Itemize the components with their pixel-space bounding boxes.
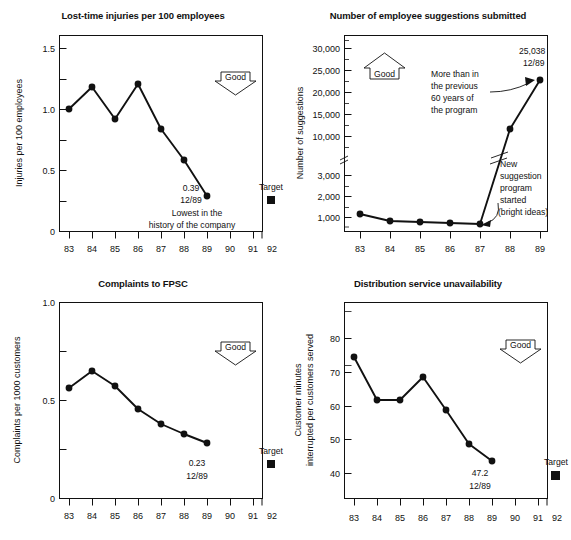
y-axis-ticks (345, 41, 352, 228)
last-value-label: 0.23 (189, 458, 206, 468)
x-tick-label: 89 (202, 244, 212, 254)
x-tick-label: 91 (248, 244, 258, 254)
x-tick-label: 85 (110, 244, 120, 254)
x-tick-label: 90 (510, 513, 520, 523)
x-tick-label: 84 (87, 511, 97, 521)
y-tick-label: 15,000 (312, 110, 340, 120)
x-tick-label: 85 (415, 244, 425, 254)
y-axis-title: Complaints per 1000 customers (12, 336, 22, 464)
last-value-date-label: 12/89 (180, 195, 202, 205)
callout-a-line-2: the previous (431, 81, 478, 91)
x-tick-label: 83 (64, 511, 74, 521)
x-tick-label: 87 (156, 244, 166, 254)
x-tick-label: 91 (533, 513, 543, 523)
callout-a-arrowhead (525, 77, 535, 86)
chart-panel-distribution-service-unavailability: Distribution service unavailability 80 7… (285, 268, 571, 540)
last-value-date-label: 12/89 (469, 481, 491, 491)
x-tick-label: 83 (64, 244, 74, 254)
chart-panel-employee-suggestions: Number of employee suggestions submitted (285, 0, 571, 270)
last-value-label: 25,038 (519, 46, 546, 56)
last-value-label: 47.2 (472, 468, 489, 478)
x-axis-ticks (70, 232, 263, 239)
y-tick-label: 10,000 (312, 132, 340, 142)
x-tick-label: 89 (535, 244, 545, 254)
x-tick-label: 85 (395, 513, 405, 523)
x-tick-label: 88 (505, 244, 515, 254)
chart-svg-lost-time-injuries: 1.5 1.0 0.5 0 Injuries per 100 employees… (0, 0, 286, 270)
chart-panel-complaints-fpsc: Complaints to FPSC 1.0 0.5 0 Complaints … (0, 268, 286, 540)
good-arrow-label: Good (225, 72, 246, 82)
x-tick-label: 92 (267, 511, 277, 521)
y-axis-ticks (345, 312, 352, 474)
y-tick-label: 3,000 (317, 171, 340, 181)
x-tick-label: 87 (156, 511, 166, 521)
y-tick-label: 50 (330, 435, 340, 445)
x-tick-label: 89 (487, 513, 497, 523)
callout-b-line-4: started (500, 195, 526, 205)
callout-a-line-4: the program (431, 105, 477, 115)
good-arrow-up: Good (364, 53, 405, 79)
x-tick-label: 92 (552, 513, 562, 523)
x-tick-label: 86 (133, 244, 143, 254)
x-tick-label: 86 (133, 511, 143, 521)
chart-svg-employee-suggestions: 30,000 25,000 20,000 15,000 10,000 3,000… (285, 0, 571, 270)
data-points (66, 81, 211, 200)
x-tick-label: 87 (441, 513, 451, 523)
target-marker (267, 460, 275, 468)
y-tick-label: 0 (50, 494, 55, 504)
y-axis-title: Number of suggestions (295, 86, 305, 179)
y-tick-label: 1.0 (42, 105, 55, 115)
x-axis-ticks (355, 499, 548, 506)
x-tick-label: 90 (225, 511, 235, 521)
callout-b-line-2: suggestion (500, 171, 542, 181)
x-tick-label: 84 (372, 513, 382, 523)
y-tick-label: 60 (330, 402, 340, 412)
note-line-1: Lowest in the (172, 208, 223, 218)
chart-svg-complaints-fpsc: 1.0 0.5 0 Complaints per 1000 customers … (0, 268, 286, 540)
y-axis-title-line-1: Customer minutes (293, 363, 303, 437)
x-axis-ticks (361, 232, 541, 239)
x-tick-label: 84 (385, 244, 395, 254)
good-arrow-down: Good (500, 340, 541, 363)
last-value-date-label: 12/89 (186, 471, 208, 481)
y-tick-label: 2,000 (317, 192, 340, 202)
chart-svg-distribution-service-unavailability: 80 70 60 50 40 30 Customer minutes inter… (285, 268, 571, 540)
x-tick-label: 88 (179, 511, 189, 521)
data-line (69, 84, 207, 196)
x-axis-ticks (70, 499, 263, 506)
good-arrow-label: Good (510, 340, 531, 350)
last-value-date-label: 12/89 (523, 58, 545, 68)
y-tick-label: 1.0 (42, 298, 55, 308)
y-tick-label: 80 (330, 334, 340, 344)
callout-a-leader (490, 83, 529, 92)
y-axis-title: Injuries per 100 employees (14, 78, 24, 187)
x-tick-label: 90 (225, 244, 235, 254)
x-tick-label: 86 (418, 513, 428, 523)
x-tick-label: 91 (248, 511, 258, 521)
last-value-label: 0.39 (183, 183, 200, 193)
y-tick-label: 1.5 (42, 44, 55, 54)
x-tick-label: 86 (445, 244, 455, 254)
plot-frame (60, 303, 263, 499)
chart-grid: Lost-time injuries per 100 employees 1.5… (0, 0, 571, 540)
y-axis-ticks (60, 303, 67, 499)
target-label: Target (259, 182, 283, 192)
y-tick-label: 40 (330, 469, 340, 479)
plot-frame (60, 36, 263, 232)
y-tick-label: 1,000 (317, 213, 340, 223)
target-label: Target (544, 457, 568, 467)
good-arrow-down: Good (215, 72, 256, 95)
target-label: Target (259, 446, 283, 456)
callout-b-line-3: program (500, 183, 532, 193)
target-marker (551, 471, 560, 480)
x-tick-label: 89 (202, 511, 212, 521)
y-tick-label: 30,000 (312, 44, 340, 54)
y-tick-label: 20,000 (312, 88, 340, 98)
target-marker (267, 196, 275, 204)
callout-a-line-1: More than in (431, 69, 479, 79)
x-tick-label: 92 (267, 244, 277, 254)
x-tick-label: 87 (475, 244, 485, 254)
note-line-2: history of the company (149, 220, 236, 230)
good-arrow-label: Good (374, 69, 395, 79)
y-tick-label: 0.5 (42, 166, 55, 176)
